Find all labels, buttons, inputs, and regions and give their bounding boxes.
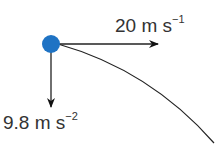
trajectory-curve <box>58 44 214 143</box>
velocity-value: 20 <box>115 15 136 36</box>
acceleration-exponent: −2 <box>65 110 78 122</box>
acceleration-value: 9.8 <box>3 112 29 133</box>
ball <box>42 35 60 53</box>
velocity-unit: m s <box>141 15 172 36</box>
acceleration-label: 9.8 m s−2 <box>3 113 78 132</box>
acceleration-unit: m s <box>35 112 66 133</box>
velocity-label: 20 m s−1 <box>115 16 185 35</box>
velocity-exponent: −1 <box>172 13 185 25</box>
